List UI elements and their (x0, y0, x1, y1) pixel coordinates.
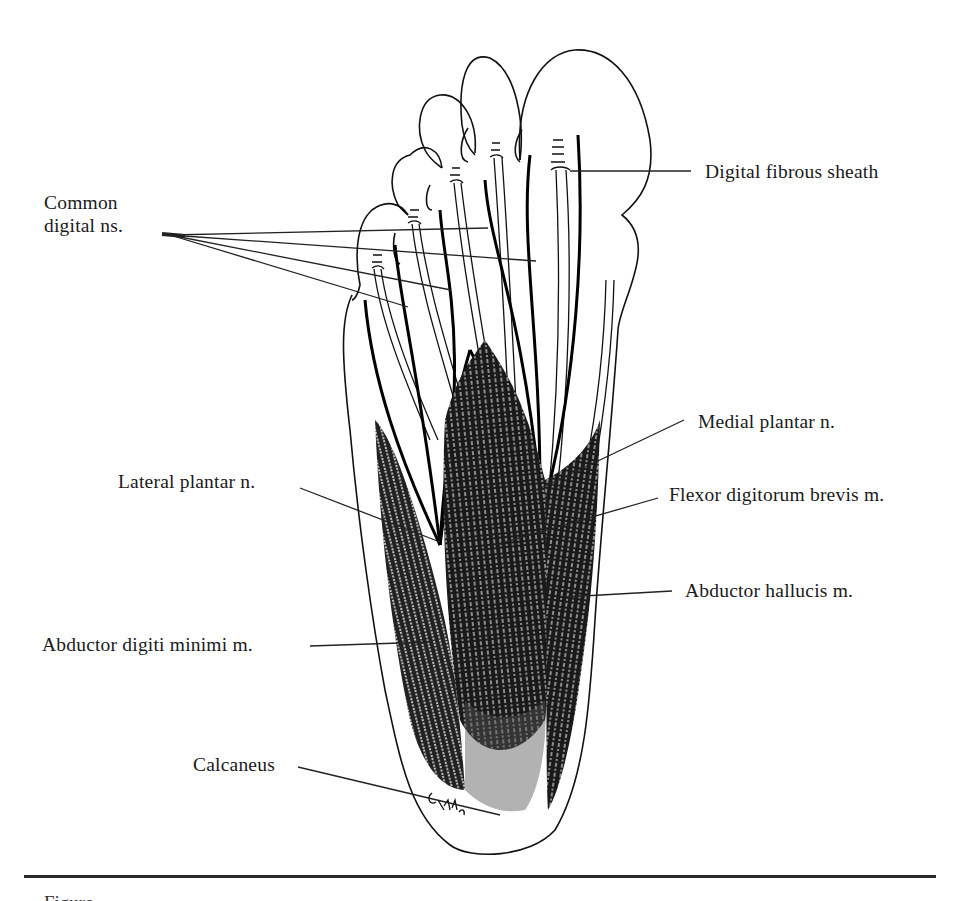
label-common-digital-ns-line2: digital ns. (44, 214, 123, 237)
figure-caption-partial: Figure (44, 893, 94, 901)
label-digital-fibrous-sheath: Digital fibrous sheath (705, 160, 878, 183)
label-abductor-hallucis-m: Abductor hallucis m. (685, 579, 853, 602)
label-calcaneus: Calcaneus (193, 753, 275, 776)
label-medial-plantar-n: Medial plantar n. (698, 410, 835, 433)
label-abductor-digiti-minimi-m: Abductor digiti minimi m. (42, 633, 253, 656)
foot-anatomy-illustration (0, 0, 979, 901)
abductor-hallucis-muscle (545, 420, 600, 810)
label-flexor-digitorum-brevis-m: Flexor digitorum brevis m. (669, 483, 884, 506)
artist-signature (429, 793, 464, 815)
label-common-digital-ns: Common digital ns. (44, 191, 123, 238)
caption-divider (24, 875, 936, 878)
label-common-digital-ns-line1: Common (44, 191, 123, 214)
label-lateral-plantar-n: Lateral plantar n. (118, 470, 255, 493)
